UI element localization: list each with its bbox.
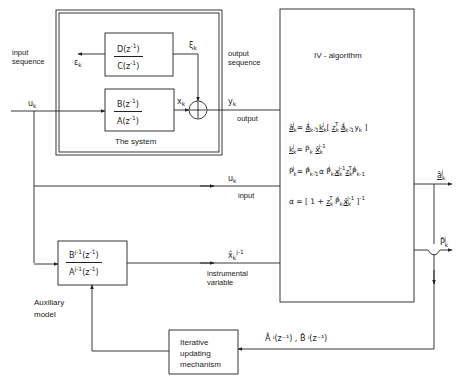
equation-p-hat: P̂kj = P̂k-1j - α P̂k-1j xkj-1zkTP̂k-1j bbox=[289, 163, 356, 179]
iterative-updating-label: Iterative updating mechanism bbox=[180, 337, 221, 370]
equation-k-gain: kkj = P̂k x̂kj-1 bbox=[289, 141, 326, 157]
iv-algorithm-title: IV - algorithm bbox=[314, 51, 362, 60]
yk-signal: yk bbox=[228, 97, 236, 108]
output-sequence-label: output sequence bbox=[228, 49, 261, 67]
uk-input-line-signal: uk bbox=[228, 174, 237, 185]
a-hat-output: âkj bbox=[437, 167, 443, 182]
input-label: input bbox=[238, 191, 254, 200]
equation-a-hat: âkj = âk-1j - kkj [ zkT âk-1j - yk ] bbox=[289, 119, 367, 135]
auxiliary-model-label: Auxiliary model bbox=[34, 297, 64, 321]
epsilon-k-signal: εk bbox=[74, 58, 82, 69]
system-label: The system bbox=[115, 137, 156, 146]
p-hat-output: P̂kj bbox=[440, 234, 446, 249]
system-outer-border bbox=[56, 10, 222, 155]
input-sequence-label: input sequence bbox=[12, 48, 45, 66]
equation-alpha: α = [ 1 + zkT P̂k-1j x̂kj-1 ]-1 bbox=[289, 193, 365, 209]
xi-k-signal: ξk bbox=[189, 41, 197, 52]
x-hat-instrumental-signal: x̂kj-1 bbox=[228, 247, 244, 262]
noise-filter-transfer-fn: D(z-1) C(z-1) bbox=[114, 42, 143, 71]
feedback-polynomials-label: Â ʲ(z⁻¹) , B̂ ʲ(z⁻¹) bbox=[265, 334, 327, 343]
uk-input-signal: uk bbox=[28, 99, 37, 110]
auxiliary-transfer-fn: Bj-1(z-1) Aj-1(z-1) bbox=[66, 248, 102, 277]
plant-transfer-fn: B(z-1) A(z-1) bbox=[114, 97, 142, 126]
xk-signal: xk bbox=[177, 97, 185, 108]
instrumental-variable-label: instrumental variable bbox=[207, 269, 248, 287]
output-label: output bbox=[237, 114, 258, 123]
